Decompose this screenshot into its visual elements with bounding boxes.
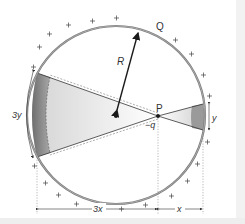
label-y: y [212, 113, 217, 123]
radius-arrow [117, 33, 138, 110]
label-r: R [117, 57, 124, 67]
small-cone [158, 104, 205, 130]
label-3y: 3y [12, 110, 22, 120]
right-margin [236, 0, 245, 224]
point-p-dot [156, 114, 160, 118]
center-dot [114, 114, 118, 118]
label-minus-q: −q [145, 120, 155, 130]
label-q: Q [156, 22, 164, 32]
label-3x: 3x [93, 204, 103, 214]
diagram-canvas: Q R P −q 3y y 3x x [0, 0, 236, 218]
label-x: x [177, 204, 182, 214]
shell-diagram [0, 0, 236, 218]
bottom-margin [0, 218, 245, 224]
large-cone [32, 73, 158, 157]
label-p: P [156, 104, 163, 114]
